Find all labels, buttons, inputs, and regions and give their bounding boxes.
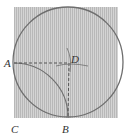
point-label-a: A [4,58,11,69]
point-label-c: C [11,124,18,135]
geometry-figure [0,0,126,137]
point-label-d: D [71,54,79,65]
point-label-b: B [62,124,69,135]
